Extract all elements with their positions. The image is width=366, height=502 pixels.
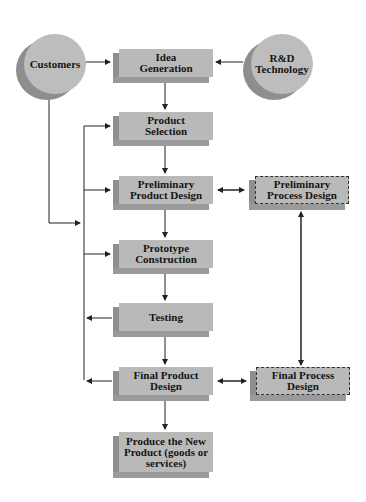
- final-process-design-label: Final Process Design: [256, 367, 350, 395]
- prototype-construction-label: Prototype Construction: [119, 240, 213, 268]
- new-product-development-diagram: Customers R&D Technology Idea Generation…: [0, 0, 366, 502]
- final-process-design-box: Final Process Design: [250, 367, 350, 401]
- rnd-technology-node: R&D Technology: [243, 34, 313, 100]
- final-product-design-label: Final Product Design: [119, 367, 213, 395]
- product-selection-box: Product Selection: [113, 112, 213, 146]
- preliminary-product-design-box: Preliminary Product Design: [113, 176, 213, 210]
- testing-label: Testing: [119, 303, 213, 331]
- product-selection-label: Product Selection: [119, 112, 213, 140]
- final-product-design-box: Final Product Design: [113, 367, 213, 401]
- prototype-construction-box: Prototype Construction: [113, 240, 213, 274]
- preliminary-process-design-box: Preliminary Process Design: [249, 176, 349, 210]
- testing-box: Testing: [113, 303, 213, 337]
- preliminary-product-design-label: Preliminary Product Design: [119, 176, 213, 204]
- rnd-technology-label: R&D Technology: [251, 34, 313, 94]
- customers-label: Customers: [24, 34, 86, 94]
- preliminary-process-design-label: Preliminary Process Design: [255, 176, 349, 204]
- idea-generation-box: Idea Generation: [113, 49, 213, 83]
- produce-new-product-box: Produce the New Product (goods or servic…: [113, 432, 213, 478]
- idea-generation-label: Idea Generation: [119, 49, 213, 77]
- produce-new-product-label: Produce the New Product (goods or servic…: [119, 432, 213, 472]
- customers-node: Customers: [16, 34, 86, 100]
